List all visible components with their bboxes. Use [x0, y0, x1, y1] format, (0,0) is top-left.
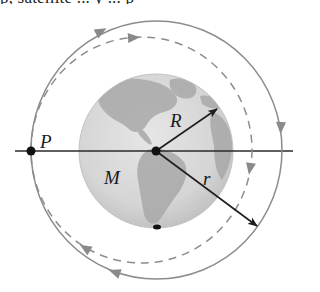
arrow-down-icon [276, 122, 286, 134]
label-earth-radius: R [170, 111, 182, 130]
label-point-p: P [40, 132, 52, 151]
arrow-up-left-icon [107, 265, 122, 279]
arrow-down-icon [244, 162, 256, 176]
arrow-right-icon [128, 32, 141, 43]
label-earth-mass: M [104, 168, 120, 187]
point-p-marker [27, 147, 36, 156]
label-orbit-radius: r [203, 169, 210, 188]
earth-center-point [152, 147, 161, 156]
